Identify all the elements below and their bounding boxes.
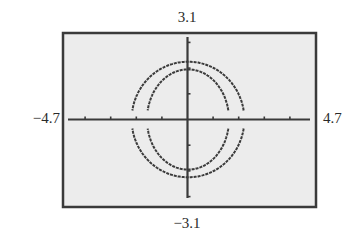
plot-area (0, 0, 355, 241)
